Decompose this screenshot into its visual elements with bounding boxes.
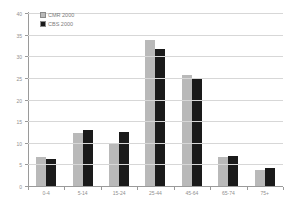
y-axis-tick-label: 30 xyxy=(4,55,22,60)
bar-cmr-2000 xyxy=(218,157,228,187)
bar-cbs-2000 xyxy=(228,156,238,187)
y-axis-tick-label: 5 xyxy=(4,163,22,168)
x-axis-tick-label: 75+ xyxy=(247,190,283,196)
legend-label: CBS 2000 xyxy=(48,21,73,27)
x-axis-tick-label: 25-44 xyxy=(137,190,173,196)
gridline xyxy=(28,121,283,122)
legend-item-cmr-2000: CMR 2000 xyxy=(40,10,74,19)
bar-group xyxy=(210,14,246,187)
gridline xyxy=(28,164,283,165)
y-axis-tick-label: 40 xyxy=(4,12,22,17)
gridline xyxy=(28,56,283,57)
gridline xyxy=(28,143,283,144)
bar-group xyxy=(247,14,283,187)
bar-cmr-2000 xyxy=(36,157,46,187)
bar-chart: 0510152025303540 0-45-1415-2425-4445-646… xyxy=(0,0,285,212)
gridline xyxy=(28,100,283,101)
bar-group xyxy=(101,14,137,187)
bar-group xyxy=(137,14,173,187)
legend-swatch-icon xyxy=(40,12,46,18)
bar-cbs-2000 xyxy=(192,79,202,187)
bar-cmr-2000 xyxy=(182,75,192,187)
x-axis-tick-mark xyxy=(247,187,248,190)
legend: CMR 2000CBS 2000 xyxy=(40,10,74,28)
bar-cmr-2000 xyxy=(109,144,119,187)
y-axis-tick-label: 25 xyxy=(4,76,22,81)
y-axis: 0510152025303540 xyxy=(0,14,28,187)
bar-cbs-2000 xyxy=(155,49,165,187)
legend-label: CMR 2000 xyxy=(48,12,74,18)
bar-cmr-2000 xyxy=(73,133,83,187)
x-axis-tick-mark xyxy=(210,187,211,190)
x-axis-tick-label: 15-24 xyxy=(101,190,137,196)
y-axis-tick-label: 35 xyxy=(4,33,22,38)
x-axis-tick-mark xyxy=(283,187,284,190)
x-axis-tick-mark xyxy=(137,187,138,190)
bar-cbs-2000 xyxy=(46,159,56,187)
bar-cmr-2000 xyxy=(255,170,265,187)
bar-group xyxy=(28,14,64,187)
plot-area xyxy=(28,14,283,187)
y-axis-tick-label: 0 xyxy=(4,185,22,190)
x-axis: 0-45-1415-2425-4445-6465-7475+ xyxy=(28,190,283,196)
bar-group xyxy=(64,14,100,187)
x-axis-tick-mark xyxy=(101,187,102,190)
bar-group xyxy=(174,14,210,187)
x-axis-line xyxy=(28,186,283,187)
bar-cbs-2000 xyxy=(119,132,129,187)
x-axis-tick-mark xyxy=(174,187,175,190)
x-axis-tick-mark xyxy=(28,187,29,190)
x-axis-tick-mark xyxy=(64,187,65,190)
y-axis-tick-label: 15 xyxy=(4,120,22,125)
bar-cbs-2000 xyxy=(265,168,275,187)
gridline xyxy=(28,35,283,36)
y-axis-tick-label: 10 xyxy=(4,141,22,146)
bar-groups xyxy=(28,14,283,187)
gridline xyxy=(28,78,283,79)
x-axis-tick-label: 65-74 xyxy=(210,190,246,196)
x-axis-tick-label: 45-64 xyxy=(174,190,210,196)
legend-item-cbs-2000: CBS 2000 xyxy=(40,19,74,28)
y-axis-tick-label: 20 xyxy=(4,98,22,103)
legend-swatch-icon xyxy=(40,21,46,27)
x-axis-tick-label: 5-14 xyxy=(64,190,100,196)
x-axis-tick-label: 0-4 xyxy=(28,190,64,196)
bar-cbs-2000 xyxy=(83,130,93,187)
